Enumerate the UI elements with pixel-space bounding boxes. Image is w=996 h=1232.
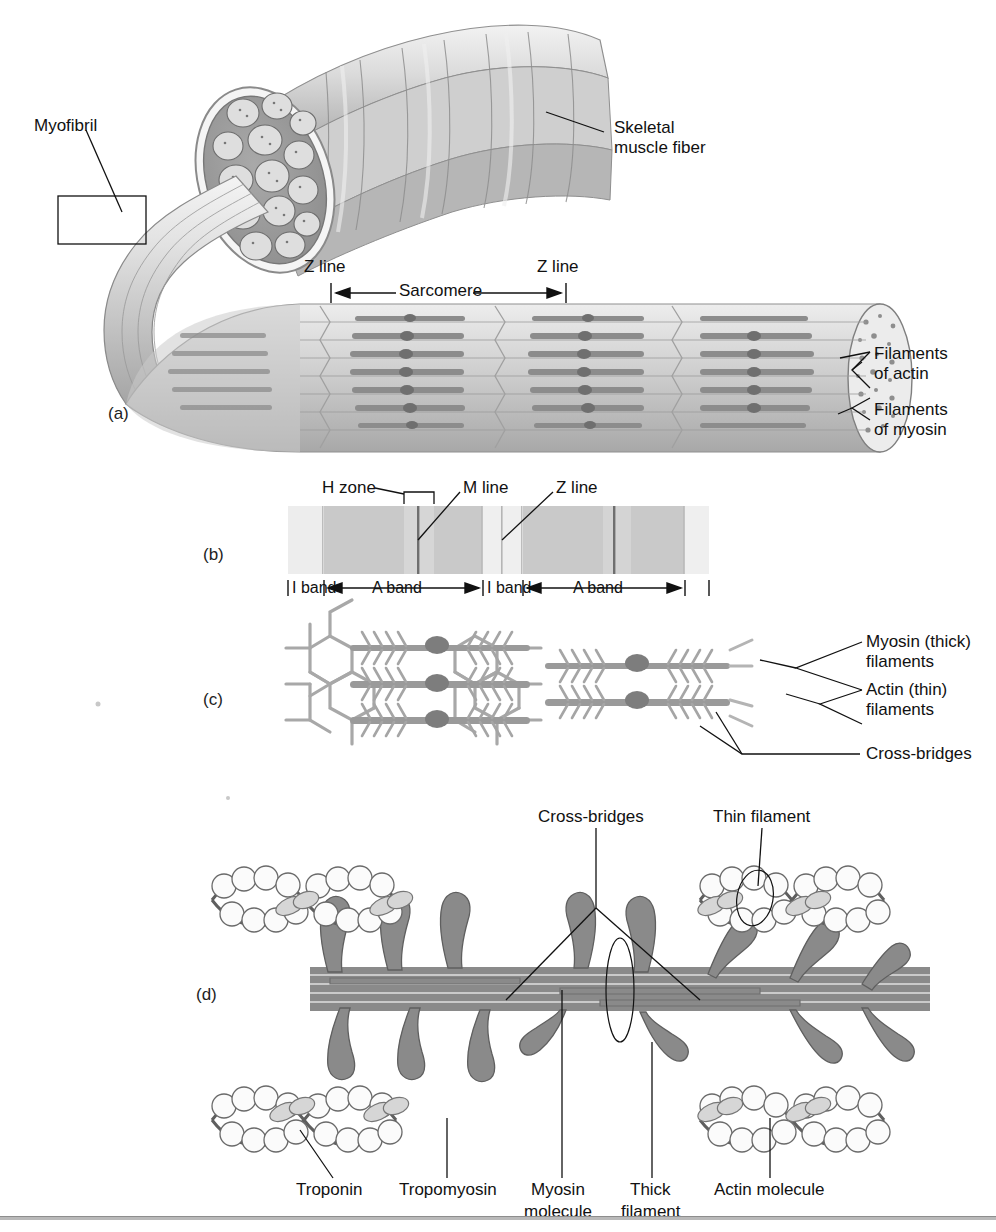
label-thin-filament: Thin filament (713, 807, 810, 827)
label-thick-filament-line1: Thick (630, 1180, 671, 1200)
label-skeletal-muscle-fiber-line2: muscle fiber (614, 138, 706, 158)
panel-letter-a: (a) (108, 404, 129, 424)
skeletal-muscle-fiber-art (104, 25, 612, 404)
label-filaments-of-actin-line2: of actin (874, 364, 929, 384)
thin-filament-bottom-left (212, 1086, 411, 1152)
label-a-band-1: A band (372, 578, 422, 598)
label-cross-bridges-panel-c: Cross-bridges (866, 744, 972, 764)
thin-filament-bottom-right (695, 1086, 890, 1152)
label-troponin: Troponin (296, 1180, 362, 1200)
panel-letter-c: (c) (203, 690, 223, 710)
label-cross-bridges-panel-d: Cross-bridges (538, 807, 644, 827)
label-actin-thin-line2: filaments (866, 700, 934, 720)
label-z-line-right: Z line (537, 257, 579, 277)
panel-c-filaments (286, 600, 752, 744)
label-a-band-2: A band (573, 578, 623, 598)
label-myosin-thick-line1: Myosin (thick) (866, 632, 971, 652)
panel-d-leaders (300, 828, 770, 1178)
label-i-band-1: I band (292, 578, 336, 598)
label-i-band-2: I band (487, 578, 531, 598)
label-filaments-of-myosin-line1: Filaments (874, 400, 948, 420)
panel-b-band-strip (288, 506, 709, 574)
label-z-line-left: Z line (304, 257, 346, 277)
thin-filament-top-right (695, 866, 890, 932)
muscle-structure-figure: Myofibril Skeletal muscle fiber Z line Z… (0, 0, 996, 1232)
label-sarcomere: Sarcomere (399, 281, 482, 301)
label-myofibril: Myofibril (34, 116, 97, 136)
label-m-line: M line (463, 478, 508, 498)
sarcomere-measure (0, 0, 996, 1232)
label-z-line-panel-b: Z line (556, 478, 598, 498)
panel-d-art (212, 866, 930, 1152)
label-actin-molecule: Actin molecule (714, 1180, 825, 1200)
label-filaments-of-actin-line1: Filaments (874, 344, 948, 364)
myofibril-cylinder-art (126, 304, 912, 452)
label-skeletal-muscle-fiber-line1: Skeletal (614, 118, 674, 138)
label-filaments-of-myosin-line2: of myosin (874, 420, 947, 440)
label-h-zone: H zone (322, 478, 376, 498)
panel-letter-d: (d) (196, 985, 217, 1005)
panel-letter-b: (b) (203, 545, 224, 565)
label-tropomyosin: Tropomyosin (399, 1180, 497, 1200)
bottom-rule (0, 1216, 996, 1220)
panel-a-leaders (58, 112, 870, 420)
thin-filament-top-left (212, 866, 415, 932)
label-myosin-thick-line2: filaments (866, 652, 934, 672)
figure-artwork (0, 0, 996, 1232)
panel-c-leaders (700, 642, 862, 754)
label-actin-thin-line1: Actin (thin) (866, 680, 947, 700)
label-myosin-molecule-line1: Myosin (531, 1180, 585, 1200)
